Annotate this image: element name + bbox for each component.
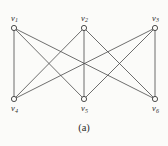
graph-vertex-v1: [11, 25, 16, 30]
vertex-label-subscript-v4: 4: [15, 108, 18, 114]
vertex-label-subscript-v2: 2: [85, 17, 88, 23]
graph-vertex-v2: [81, 25, 86, 30]
vertex-label-v1: v1: [11, 14, 18, 23]
vertex-label-subscript-v5: 5: [85, 108, 88, 114]
edge-layer: [14, 28, 155, 99]
figure-container: v1v2v3v4v5v6 (a): [0, 0, 168, 146]
vertex-label-v4: v4: [11, 104, 18, 113]
vertex-label-v6: v6: [152, 104, 159, 113]
vertex-label-subscript-v3: 3: [156, 17, 159, 23]
vertex-label-subscript-v6: 6: [156, 108, 159, 114]
graph-vertex-v5: [81, 96, 86, 101]
vertex-label-subscript-v1: 1: [15, 17, 18, 23]
vertex-label-v2: v2: [81, 14, 88, 23]
vertex-label-v5: v5: [81, 104, 88, 113]
graph-vertex-v3: [152, 25, 157, 30]
vertex-label-v3: v3: [152, 14, 159, 23]
graph-vertex-v4: [11, 96, 16, 101]
graph-vertex-v6: [152, 96, 157, 101]
figure-caption: (a): [0, 123, 168, 134]
